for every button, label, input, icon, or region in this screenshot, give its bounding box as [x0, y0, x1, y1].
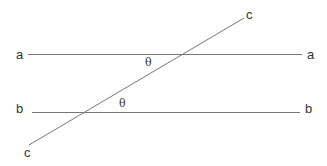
label-a-right: a — [307, 47, 315, 62]
angle-theta-upper: θ — [145, 56, 152, 69]
parallel-lines-diagram: a a b b c c θ θ — [0, 0, 327, 166]
line-c-transversal — [29, 18, 244, 145]
label-c-bottom: c — [24, 145, 31, 160]
label-a-left: a — [16, 47, 24, 62]
angle-theta-lower: θ — [119, 97, 126, 110]
label-b-left: b — [16, 101, 23, 116]
label-c-top: c — [246, 7, 253, 22]
label-b-right: b — [305, 101, 312, 116]
